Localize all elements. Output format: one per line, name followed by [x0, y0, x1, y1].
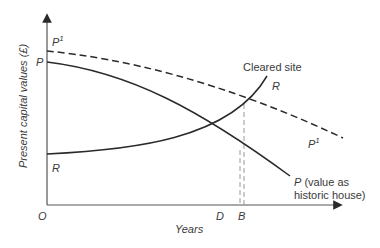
marker-d-label: D — [216, 210, 224, 222]
p-start-label: P — [36, 56, 44, 68]
p1-start-label: P1 — [52, 34, 64, 48]
p1-end-label: P1 — [308, 136, 320, 150]
origin-label: O — [38, 210, 47, 222]
diagram-canvas: Present capital values (£) Years O P1 P … — [0, 0, 380, 248]
y-axis-label: Present capital values (£) — [17, 44, 29, 168]
curve-r — [47, 76, 267, 154]
r-start-label: R — [52, 162, 60, 174]
curve-p — [47, 62, 290, 176]
x-axis-label: Years — [175, 223, 204, 235]
cleared-site-label: Cleared site — [243, 61, 302, 73]
p-end-label: P (value as — [294, 176, 350, 188]
r-end-label: R — [272, 80, 280, 92]
p-end-desc: historic house) — [294, 189, 366, 201]
marker-b-label: B — [238, 210, 245, 222]
